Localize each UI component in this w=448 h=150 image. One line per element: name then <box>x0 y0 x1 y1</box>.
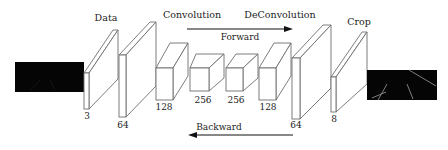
forward-label: Forward <box>221 32 260 42</box>
forward-arrowhead-icon <box>284 26 293 32</box>
layer-deconv3-slab <box>292 25 331 119</box>
layer-deconv2-box <box>259 43 291 100</box>
layer-crop-slab <box>331 32 367 112</box>
channels-128-label-deconv: 128 <box>259 102 276 112</box>
layer-conv1-slab <box>119 22 156 117</box>
backward-label: Backward <box>196 122 242 132</box>
layer-conv2-box <box>156 43 188 100</box>
label-data: Data <box>95 12 118 23</box>
channels-3-label: 3 <box>84 111 90 121</box>
forward-arrow: Forward <box>187 26 293 42</box>
label-deconvolution: DeConvolution <box>244 9 315 20</box>
label-crop: Crop <box>347 16 371 27</box>
input-image <box>15 62 84 92</box>
layer-data-slab <box>84 30 118 109</box>
channels-64-label-deconv: 64 <box>290 120 302 130</box>
channels-64-label: 64 <box>117 120 129 130</box>
channels-256-label-deconv: 256 <box>227 95 244 105</box>
network-architecture-diagram: Data Convolution DeConvolution Crop Forw… <box>0 0 448 150</box>
backward-arrowhead-icon <box>188 132 197 138</box>
layer-deconv1-box <box>226 54 258 91</box>
channels-128-label-conv: 128 <box>155 102 172 112</box>
channels-8-label: 8 <box>331 114 337 124</box>
label-convolution: Convolution <box>163 9 221 20</box>
layer-conv3-box <box>190 54 224 91</box>
backward-arrow: Backward <box>188 122 293 138</box>
channels-256-label-conv: 256 <box>194 95 211 105</box>
output-image <box>367 70 437 100</box>
